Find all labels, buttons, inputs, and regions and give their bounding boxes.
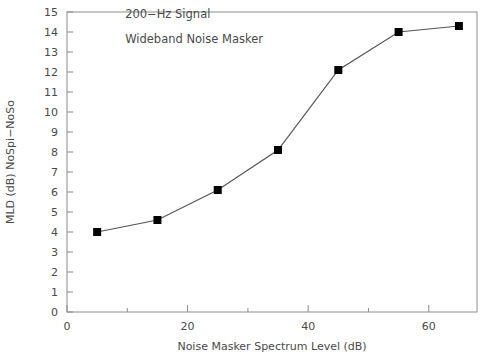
y-tick-label: 5 <box>51 206 58 219</box>
chart-figure: 0123456789101112131415 0204060 200−Hz Si… <box>0 0 491 359</box>
data-point-marker <box>395 28 403 36</box>
plot-border <box>67 12 477 312</box>
chart-annotation: Wideband Noise Masker <box>125 32 263 46</box>
y-tick-label: 10 <box>44 106 58 119</box>
y-tick-label: 7 <box>51 166 58 179</box>
data-series-group <box>93 22 463 236</box>
data-point-marker <box>214 186 222 194</box>
x-axis-title: Noise Masker Spectrum Level (dB) <box>177 340 366 353</box>
series-line <box>97 26 459 232</box>
y-tick-label: 2 <box>51 266 58 279</box>
y-tick-label: 3 <box>51 246 58 259</box>
data-point-marker <box>334 66 342 74</box>
y-tick-label: 11 <box>44 86 58 99</box>
x-tick-label: 60 <box>422 320 436 333</box>
data-point-marker <box>455 22 463 30</box>
y-tick-label: 14 <box>44 26 58 39</box>
data-point-marker <box>153 216 161 224</box>
annotations-group: 200−Hz SignalWideband Noise Masker <box>125 7 263 46</box>
y-axis-title: MLD (dB) NoSpi−NoSo <box>4 100 17 224</box>
x-tick-label: 40 <box>301 320 315 333</box>
y-tick-label: 1 <box>51 286 58 299</box>
chart-annotation: 200−Hz Signal <box>125 7 210 21</box>
y-tick-label: 9 <box>51 126 58 139</box>
y-tick-label: 12 <box>44 66 58 79</box>
line-chart: 0123456789101112131415 0204060 200−Hz Si… <box>0 0 491 359</box>
y-tick-label: 15 <box>44 6 58 19</box>
y-tick-label: 13 <box>44 46 58 59</box>
plot-frame <box>67 12 477 312</box>
y-axis-ticks: 0123456789101112131415 <box>44 6 73 319</box>
y-tick-label: 0 <box>51 306 58 319</box>
y-tick-label: 8 <box>51 146 58 159</box>
data-point-marker <box>93 228 101 236</box>
y-tick-label: 6 <box>51 186 58 199</box>
data-point-marker <box>274 146 282 154</box>
x-axis-ticks: 0204060 <box>64 305 436 333</box>
x-tick-label: 0 <box>64 320 71 333</box>
x-tick-label: 20 <box>181 320 195 333</box>
y-tick-label: 4 <box>51 226 58 239</box>
